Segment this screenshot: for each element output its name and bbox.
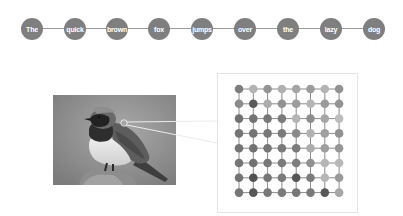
grid-pixel-dot (321, 144, 330, 153)
grid-pixel-dot (249, 174, 258, 183)
grid-pixel-dot (335, 188, 344, 197)
grid-pixel-dot (292, 144, 301, 153)
grid-pixel-dot (263, 144, 272, 153)
grid-pixel-dot (235, 100, 244, 109)
grid-pixel-dot (306, 85, 315, 94)
grid-pixel-dot (306, 100, 315, 109)
grid-pixel-dot (278, 129, 287, 138)
grid-pixel-dot (321, 159, 330, 168)
grid-pixel-dot (292, 114, 301, 123)
grid-pixel-dot (306, 144, 315, 153)
grid-pixel-dot (235, 85, 244, 94)
pixel-grid (218, 74, 357, 212)
grid-pixel-dot (249, 85, 258, 94)
connector-line-top (127, 121, 217, 122)
grid-pixel-dot (335, 85, 344, 94)
grid-pixel-dot (249, 159, 258, 168)
grid-pixel-dot (306, 174, 315, 183)
grid-pixel-dot (335, 114, 344, 123)
grid-pixel-dot (249, 129, 258, 138)
grid-pixel-dot (321, 174, 330, 183)
grid-pixel-dot (292, 100, 301, 109)
grid-pixel-dot (292, 159, 301, 168)
grid-pixel-dot (263, 85, 272, 94)
grid-pixel-dot (292, 174, 301, 183)
grid-pixel-dot (292, 85, 301, 94)
connector-line-bottom (127, 125, 217, 143)
grid-pixel-dot (263, 174, 272, 183)
grid-pixel-dot (278, 85, 287, 94)
grid-pixel-dot (235, 174, 244, 183)
grid-pixel-dot (321, 114, 330, 123)
grid-pixel-dot (263, 188, 272, 197)
grid-pixel-dot (306, 114, 315, 123)
grid-pixel-dot (321, 85, 330, 94)
grid-pixel-dot (278, 114, 287, 123)
grid-pixel-dot (235, 144, 244, 153)
grid-pixel-dot (249, 100, 258, 109)
grid-pixel-dot (235, 114, 244, 123)
highlight-point-marker (121, 120, 127, 126)
grid-pixel-dot (263, 129, 272, 138)
grid-pixel-dot (321, 129, 330, 138)
grid-pixel-dot (235, 129, 244, 138)
grid-pixel-dot (263, 100, 272, 109)
grid-pixel-dot (249, 114, 258, 123)
grid-pixel-dot (235, 188, 244, 197)
grid-pixel-dot (263, 159, 272, 168)
pixel-grid-panel (217, 73, 358, 213)
grid-pixel-dot (278, 100, 287, 109)
grid-pixel-dot (249, 144, 258, 153)
grid-pixel-dot (335, 129, 344, 138)
grid-pixel-dot (278, 188, 287, 197)
grid-pixel-dot (321, 100, 330, 109)
grid-pixel-dot (306, 188, 315, 197)
grid-pixel-dot (306, 129, 315, 138)
grid-pixel-dot (278, 174, 287, 183)
grid-pixel-dot (306, 159, 315, 168)
grid-pixel-dot (278, 159, 287, 168)
grid-pixel-dot (249, 188, 258, 197)
grid-pixel-dot (321, 188, 330, 197)
grid-pixel-dot (335, 174, 344, 183)
grid-pixel-dot (292, 188, 301, 197)
grid-pixel-dot (235, 159, 244, 168)
grid-pixel-dot (335, 159, 344, 168)
grid-pixel-dot (263, 114, 272, 123)
grid-pixel-dot (278, 144, 287, 153)
grid-pixel-dot (292, 129, 301, 138)
grid-pixel-dot (335, 144, 344, 153)
grid-pixel-dot (335, 100, 344, 109)
